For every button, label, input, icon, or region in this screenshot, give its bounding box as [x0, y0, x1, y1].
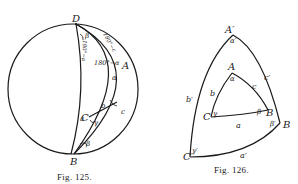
label-B-inner: B [265, 107, 273, 118]
label-A-inner: A [227, 61, 235, 72]
label-gamma-prime: γ′ [192, 147, 198, 155]
caption-fig-126: Fig. 126. [214, 165, 249, 175]
label-c: c [252, 82, 257, 91]
sphere-circle [8, 24, 138, 154]
label-beta-top: β [84, 32, 89, 40]
figure-125: D A C B β 180°−c 180°−a 180°−α b α γ a c… [8, 13, 138, 182]
label-a-prime: a′ [240, 151, 247, 160]
label-b: b [101, 102, 106, 110]
label-b: b [210, 89, 215, 98]
side-a-prime [190, 123, 280, 157]
label-beta-bottom: β [85, 140, 90, 148]
label-D: D [71, 13, 80, 24]
label-180-minus-a: 180°−a [81, 40, 88, 61]
label-beta: β [256, 108, 261, 116]
arc-DCB [71, 24, 81, 154]
label-A: A [121, 60, 129, 71]
label-a: a [236, 121, 241, 130]
side-c [232, 73, 268, 110]
label-B-outer: B [282, 119, 290, 130]
figure-126: A′ α′ c′ b′ B β′ C′ γ′ a′ A α c b C γ β … [183, 24, 290, 175]
label-c: c [121, 108, 125, 116]
label-C-inner: C [203, 111, 211, 122]
label-c-prime: c′ [264, 73, 270, 82]
label-alpha-prime: α′ [230, 37, 237, 45]
label-alpha: α [230, 75, 235, 83]
label-alpha: α [112, 74, 117, 82]
label-180-minus-alpha: 180°−α [94, 59, 120, 67]
label-180-minus-c: 180°−c [102, 32, 117, 53]
caption-fig-125: Fig. 125. [57, 172, 92, 182]
diagram-canvas: D A C B β 180°−c 180°−a 180°−α b α γ a c… [0, 0, 298, 184]
label-B: B [69, 156, 77, 167]
label-a: a [80, 115, 84, 123]
label-beta-prime: β′ [269, 120, 276, 128]
label-b-prime: b′ [186, 95, 193, 104]
label-A-prime: A′ [224, 24, 235, 35]
